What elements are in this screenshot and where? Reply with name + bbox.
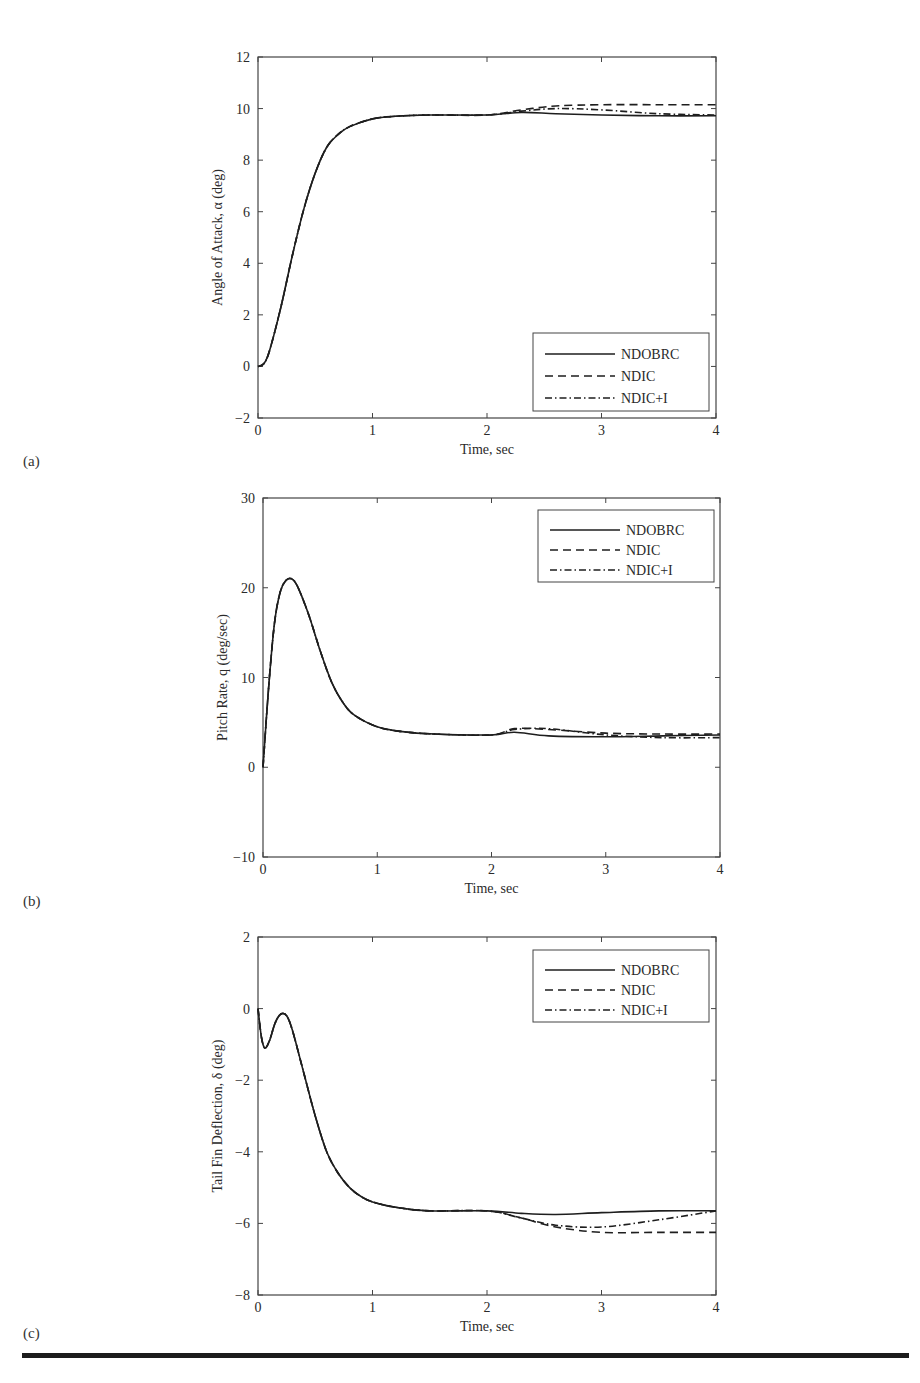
y-tick-label: 30 (241, 491, 255, 506)
x-tick-label: 1 (369, 423, 376, 438)
y-tick-label: 8 (243, 153, 250, 168)
y-axis-label: Pitch Rate, q (deg/sec) (215, 614, 231, 741)
x-tick-label: 1 (369, 1300, 376, 1315)
y-tick-label: −10 (233, 850, 255, 865)
series-line-ndic-i (258, 1009, 716, 1228)
series-line-ndic-i (263, 578, 720, 767)
legend-label: NDIC (621, 369, 655, 384)
x-tick-label: 2 (488, 862, 495, 877)
y-tick-label: 10 (241, 671, 255, 686)
legend: NDOBRCNDICNDIC+I (538, 510, 714, 582)
panel-label-c: (c) (23, 1325, 40, 1342)
chart-pitch-rate: 01234−100102030Time, secPitch Rate, q (d… (215, 491, 724, 896)
y-tick-label: 2 (243, 308, 250, 323)
figure-canvas: 01234−2024681012Time, secAngle of Attack… (0, 0, 920, 1383)
x-axis-label: Time, sec (465, 881, 519, 896)
chart-tail-fin-deflection: 01234−8−6−4−202Time, secTail Fin Deflect… (210, 930, 720, 1334)
x-axis-label: Time, sec (460, 1319, 514, 1334)
y-tick-label: 12 (236, 50, 250, 65)
panel-label-a: (a) (23, 453, 40, 470)
legend-label: NDIC+I (626, 563, 673, 578)
chart-angle-of-attack: 01234−2024681012Time, secAngle of Attack… (210, 50, 720, 457)
x-tick-label: 2 (484, 423, 491, 438)
y-tick-label: −2 (235, 411, 250, 426)
x-tick-label: 0 (255, 423, 262, 438)
legend-label: NDIC+I (621, 1003, 668, 1018)
x-tick-label: 3 (598, 1300, 605, 1315)
series-line-ndic (258, 1009, 716, 1233)
series-line-ndic (263, 578, 720, 767)
panel-label-b: (b) (23, 893, 41, 910)
y-tick-label: −4 (235, 1145, 250, 1160)
legend: NDOBRCNDICNDIC+I (533, 950, 709, 1022)
x-tick-label: 2 (484, 1300, 491, 1315)
y-tick-label: 6 (243, 205, 250, 220)
x-axis-label: Time, sec (460, 442, 514, 457)
x-tick-label: 1 (374, 862, 381, 877)
x-tick-label: 4 (717, 862, 724, 877)
y-axis-label: Tail Fin Deflection, δ (deg) (210, 1039, 226, 1192)
y-tick-label: 2 (243, 930, 250, 945)
x-tick-label: 3 (602, 862, 609, 877)
y-tick-label: −2 (235, 1073, 250, 1088)
y-tick-label: 4 (243, 256, 250, 271)
legend-label: NDOBRC (621, 347, 679, 362)
x-tick-label: 0 (255, 1300, 262, 1315)
x-tick-label: 0 (260, 862, 267, 877)
series-line-ndobrc (263, 578, 720, 767)
y-tick-label: 0 (243, 1002, 250, 1017)
series-line-ndic (258, 105, 716, 367)
legend-label: NDOBRC (621, 963, 679, 978)
y-tick-label: 0 (248, 760, 255, 775)
y-tick-label: 20 (241, 581, 255, 596)
x-tick-label: 3 (598, 423, 605, 438)
series-line-ndobrc (258, 1009, 716, 1215)
legend-label: NDIC+I (621, 391, 668, 406)
legend: NDOBRCNDICNDIC+I (533, 333, 709, 411)
y-tick-label: −6 (235, 1216, 250, 1231)
y-tick-label: −8 (235, 1288, 250, 1303)
legend-label: NDIC (621, 983, 655, 998)
x-tick-label: 4 (713, 423, 720, 438)
legend-label: NDOBRC (626, 523, 684, 538)
legend-label: NDIC (626, 543, 660, 558)
y-tick-label: 10 (236, 102, 250, 117)
series-line-ndobrc (258, 112, 716, 366)
y-axis-label: Angle of Attack, α (deg) (210, 169, 226, 306)
bottom-rule-divider (22, 1353, 909, 1358)
x-tick-label: 4 (713, 1300, 720, 1315)
y-tick-label: 0 (243, 359, 250, 374)
